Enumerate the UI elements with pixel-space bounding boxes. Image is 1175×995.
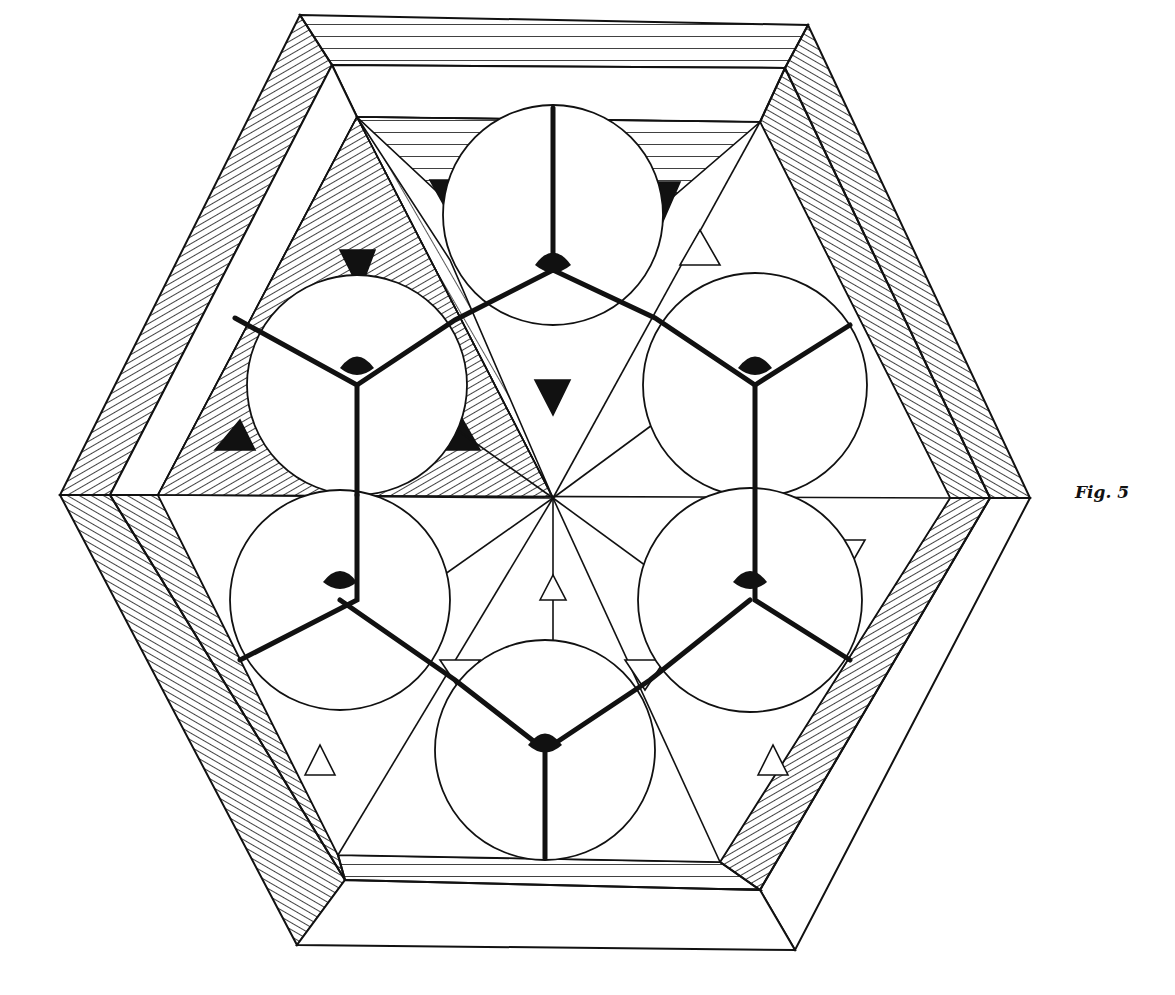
hexagon-ornament-figure — [0, 0, 1175, 995]
figure-caption: Fig. 5 — [1075, 482, 1129, 502]
